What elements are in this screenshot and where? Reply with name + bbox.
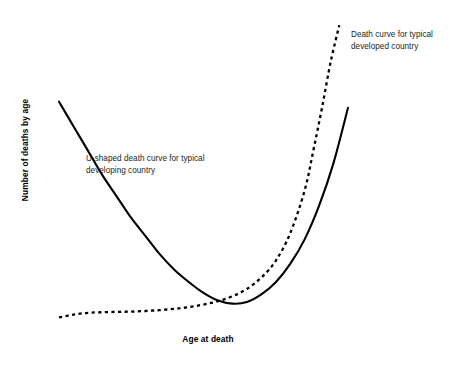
chart-plot-area — [0, 0, 465, 365]
chart-figure: U-shaped death curve for typicaldevelopi… — [0, 0, 465, 365]
curve-developing-country — [59, 102, 348, 304]
annotation-developed-country: Death curve for typicaldeveloped country — [351, 29, 433, 52]
annotation-developed-line2: developed country — [351, 42, 418, 51]
y-axis-label: Number of deaths by age — [20, 70, 30, 230]
annotation-developing-line1: U-shaped death curve for typical — [86, 154, 205, 163]
x-axis-label: Age at death — [0, 334, 416, 344]
annotation-developing-line2: developing country — [86, 166, 155, 175]
annotation-developed-line1: Death curve for typical — [351, 30, 433, 39]
annotation-developing-country: U-shaped death curve for typicaldevelopi… — [86, 153, 205, 176]
